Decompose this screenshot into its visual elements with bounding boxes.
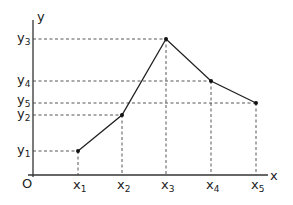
y5-label: y5 — [17, 92, 30, 109]
point-1 — [76, 149, 80, 153]
x3-label: x3 — [161, 177, 174, 194]
vertical-guides — [78, 39, 256, 175]
point-5 — [254, 101, 258, 105]
x1-label: x1 — [73, 177, 86, 194]
data-points — [76, 37, 258, 153]
horizontal-guides — [33, 39, 256, 151]
data-polyline — [78, 39, 256, 151]
x-axis-label: x — [270, 168, 278, 183]
point-2 — [120, 113, 124, 117]
x4-label: x4 — [206, 177, 220, 194]
y1-label: y1 — [17, 142, 30, 159]
origin-label: O — [22, 176, 32, 191]
y3-label: y3 — [17, 30, 30, 47]
line-graph-diagram: y x O y1 y2 y3 y4 y5 x1 x2 x3 x4 — [0, 0, 293, 205]
point-4 — [209, 79, 213, 83]
y-axis-label: y — [37, 9, 45, 24]
x5-label: x5 — [251, 177, 264, 194]
point-3 — [164, 37, 168, 41]
x-tick-labels: x1 x2 x3 x4 x5 — [73, 177, 264, 194]
x2-label: x2 — [117, 177, 130, 194]
y-tick-labels: y1 y2 y3 y4 y5 — [17, 30, 31, 159]
y4-label: y4 — [17, 72, 31, 89]
